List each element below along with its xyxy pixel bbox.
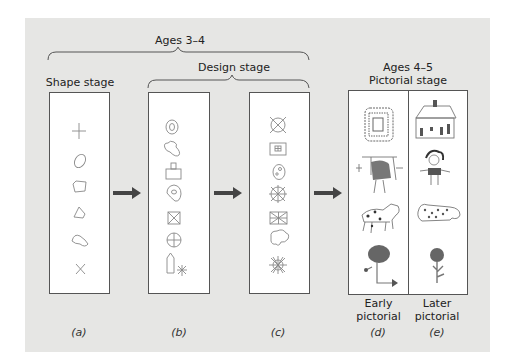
panel-b-label: (b) (159, 326, 199, 339)
later-pictorial-caption-line1: Later (407, 297, 467, 310)
panel-a-label: (a) (59, 326, 99, 339)
panel-e-label: (e) (417, 326, 457, 339)
early-pictorial-caption-line1: Early (348, 297, 409, 310)
later-pictorial-caption-line2: pictorial (407, 310, 467, 323)
panel-d-label: (d) (358, 326, 398, 339)
panel-c-label: (c) (258, 326, 298, 339)
early-pictorial-caption-line2: pictorial (348, 310, 409, 323)
